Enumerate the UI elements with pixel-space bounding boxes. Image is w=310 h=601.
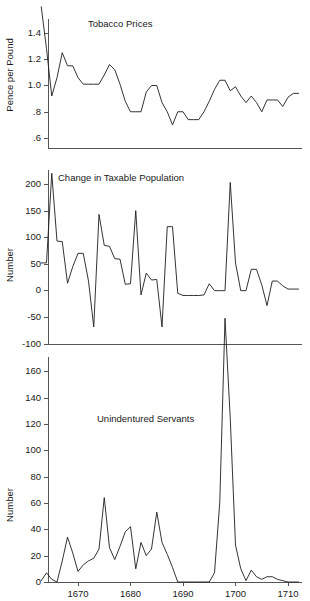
y-tick-label: -100 <box>22 338 41 349</box>
chart-panel-2: 200150100500-50-100Change in Taxable Pop… <box>4 170 302 349</box>
x-tick-label: 1700 <box>225 588 246 599</box>
x-tick-label: 1680 <box>120 588 141 599</box>
y-tick-label: -50 <box>27 311 41 322</box>
y-tick-label: 1.2 <box>28 53 41 64</box>
panel-title: Tobacco Prices <box>88 18 153 29</box>
y-tick-label: .8 <box>33 106 41 117</box>
y-tick-label: 0 <box>36 284 41 295</box>
y-tick-label: 80 <box>30 471 41 482</box>
y-tick-label: 140 <box>25 392 41 403</box>
x-tick-label: 1710 <box>277 588 298 599</box>
series-line <box>41 318 298 582</box>
y-tick-label: 60 <box>30 497 41 508</box>
y-axis-title: Number <box>4 488 15 522</box>
y-tick-label: .6 <box>33 132 41 143</box>
chart-panel-3: 1601401201008060402001670168016901700171… <box>4 318 302 599</box>
x-tick-label: 1690 <box>172 588 193 599</box>
y-tick-label: 120 <box>25 418 41 429</box>
y-tick-label: 160 <box>25 365 41 376</box>
x-tick-label: 1670 <box>67 588 88 599</box>
panel-title: Unindentured Servants <box>97 413 194 424</box>
y-tick-label: 100 <box>25 231 41 242</box>
y-tick-label: 100 <box>25 444 41 455</box>
chart-canvas: 1.41.21.0.8.6Tobacco PricesPence per Pou… <box>0 0 310 601</box>
y-tick-label: 0 <box>36 576 41 587</box>
figure-tobacco-population-servants: 1.41.21.0.8.6Tobacco PricesPence per Pou… <box>0 0 310 601</box>
y-tick-label: 40 <box>30 523 41 534</box>
y-tick-label: 1.4 <box>28 27 41 38</box>
y-tick-label: 200 <box>25 178 41 189</box>
y-tick-label: 150 <box>25 205 41 216</box>
panel-title: Change in Taxable Population <box>58 172 184 183</box>
y-tick-label: 1.0 <box>28 79 41 90</box>
y-axis-title: Pence per Pound <box>4 38 15 111</box>
series-line <box>41 7 298 125</box>
chart-panel-1: 1.41.21.0.8.6Tobacco PricesPence per Pou… <box>4 7 302 148</box>
y-tick-label: 20 <box>30 550 41 561</box>
y-axis-title: Number <box>4 248 15 282</box>
y-tick-label: 50 <box>30 258 41 269</box>
series-line <box>41 173 298 327</box>
